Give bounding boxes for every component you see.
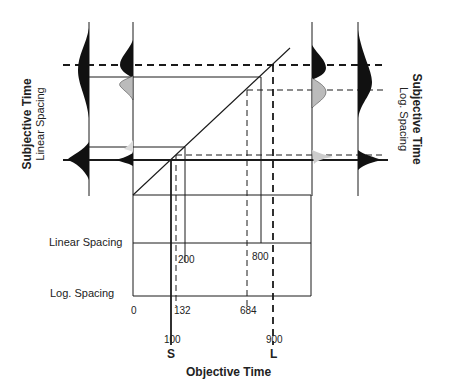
row-label-linear: Linear Spacing — [49, 236, 122, 248]
identity-diagonal — [133, 48, 290, 195]
x-axis-title: Objective Time — [186, 365, 271, 379]
horizontal-references — [63, 65, 388, 160]
right-axis-subtitle: Log. Spacing — [398, 59, 410, 179]
tick-900: 900 — [266, 334, 283, 345]
left-axis-title: Subjective Time Linear Spacing — [20, 64, 48, 184]
tick-200: 200 — [178, 254, 195, 265]
distribution-log-2 — [358, 30, 382, 170]
anchor-label-l: L — [270, 347, 277, 361]
objective-references — [171, 65, 273, 345]
anchor-label-s: S — [167, 347, 175, 361]
tick-100: 100 — [164, 334, 181, 345]
timing-diagram — [0, 0, 450, 391]
left-axis-subtitle: Linear Spacing — [34, 64, 46, 184]
tick-684: 684 — [240, 305, 257, 316]
tick-132: 132 — [174, 305, 191, 316]
distribution-log-1 — [312, 45, 333, 164]
tick-0: 0 — [131, 305, 137, 316]
tick-800: 800 — [252, 251, 269, 262]
right-axis-title: Subjective Time Log. Spacing — [396, 59, 424, 179]
row-label-log: Log. Spacing — [50, 287, 114, 299]
right-axis-title-text: Subjective Time — [410, 59, 424, 179]
mapping-grid — [133, 195, 311, 296]
distribution-linear-1 — [67, 28, 89, 180]
left-axis-title-text: Subjective Time — [20, 64, 34, 184]
